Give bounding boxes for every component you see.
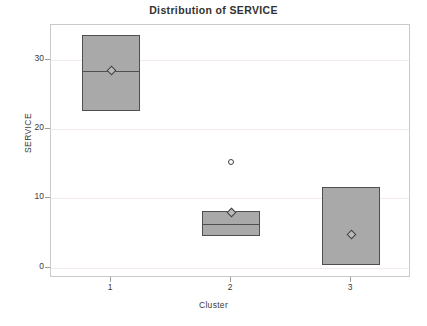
y-tick-label-30: 30	[14, 54, 44, 63]
box-plot-figure: Distribution of SERVICE 0 10 20 30 SERVI…	[0, 0, 427, 326]
median-line-cluster-2	[202, 224, 260, 225]
gridline-20	[51, 129, 409, 130]
outlier-cluster-2-0	[228, 159, 234, 165]
x-tick-label-3: 3	[335, 283, 365, 292]
chart-title: Distribution of SERVICE	[0, 4, 427, 16]
x-axis-title: Cluster	[0, 300, 427, 310]
x-tick-label-1: 1	[95, 283, 125, 292]
gridline-0	[51, 268, 409, 269]
y-tick-label-0: 0	[14, 262, 44, 271]
y-axis-title: SERVICE	[23, 93, 33, 173]
plot-area	[50, 24, 410, 277]
y-tick-label-10: 10	[14, 192, 44, 201]
box-cluster-3	[322, 187, 380, 265]
x-tick-label-2: 2	[215, 283, 245, 292]
y-axis: 0 10 20 30 SERVICE	[0, 0, 46, 326]
